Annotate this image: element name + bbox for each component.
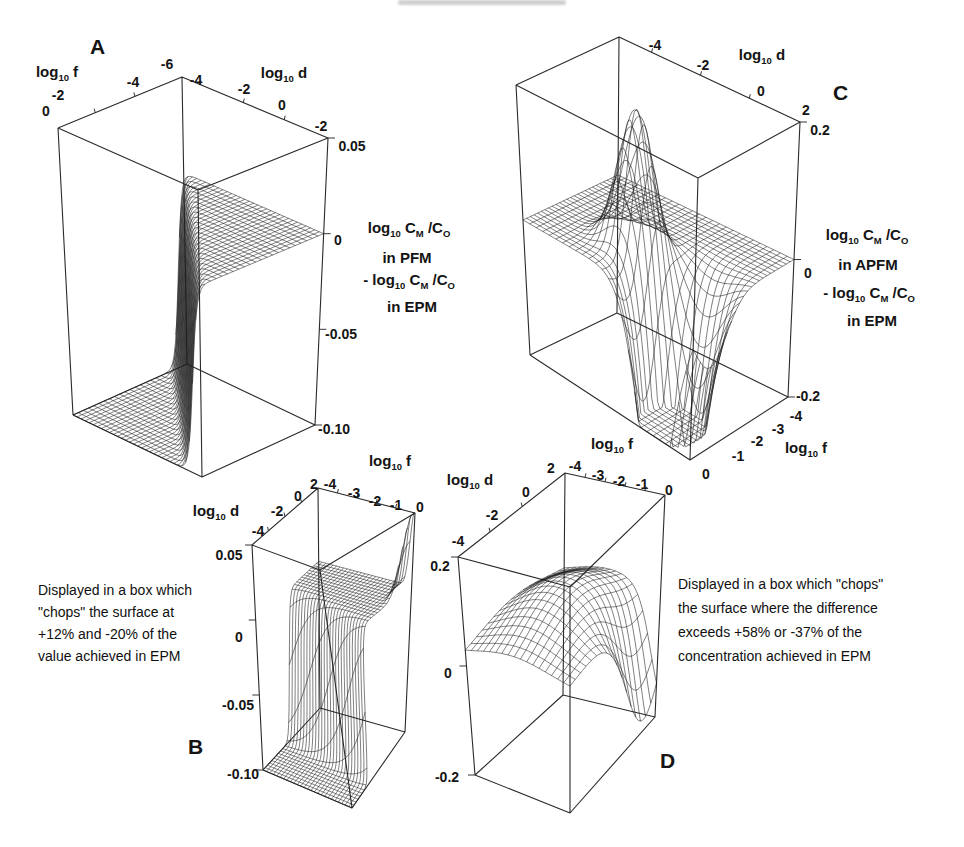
zlabel-a-line4: in EPM xyxy=(387,298,437,315)
tick-c-z-1: 0 xyxy=(804,265,812,281)
tick-b-d-3: 2 xyxy=(310,476,318,492)
zlabel-c-line2: in APFM xyxy=(838,256,897,273)
tick-a-z-0: 0.05 xyxy=(338,138,365,154)
axis-label-c-d: log10 d xyxy=(739,46,785,66)
axis-label-d-f: log10 f xyxy=(591,435,633,455)
tick-b-f-2: -2 xyxy=(369,493,381,509)
caption-right-line3: exceeds +58% or -37% of the xyxy=(678,624,862,640)
zlabel-c-line1: log10 CM /CO xyxy=(826,226,909,246)
panel-letter-c: C xyxy=(833,81,849,105)
tick-d-d-2: -2 xyxy=(486,507,498,523)
tick-c-f-1: -3 xyxy=(772,421,784,437)
tick-c-z-2: -0.2 xyxy=(796,388,820,404)
caption-right-line4: concentration achieved in EPM xyxy=(678,648,871,664)
tick-d-f-3: -1 xyxy=(636,476,648,492)
tick-a-d-1: -2 xyxy=(238,81,250,97)
axis-label-d-d: log10 d xyxy=(447,471,493,491)
zlabel-a-line3: - log10 CM /CO xyxy=(363,271,455,291)
zlabel-a-line1: log10 CM /CO xyxy=(368,219,451,239)
axis-label-a-f: log10 f xyxy=(36,63,78,83)
tick-a-z-2: -0.05 xyxy=(325,326,357,342)
panel-letter-d: D xyxy=(660,749,676,773)
tick-a-f-3: -6 xyxy=(161,56,173,72)
tick-a-d-0: -4 xyxy=(190,72,202,88)
tick-d-f-4: 0 xyxy=(665,482,673,498)
tick-b-d-0: -4 xyxy=(252,523,264,539)
caption-left-line3: +12% and -20% of the xyxy=(38,626,177,642)
tick-b-z-0: 0.05 xyxy=(215,547,242,563)
tick-d-d-1: 0 xyxy=(522,484,530,500)
tick-a-z-3: -0.10 xyxy=(318,421,350,437)
tick-a-d-3: -2 xyxy=(315,118,327,134)
zlabel-c-line4: in EPM xyxy=(847,312,897,329)
panel-letter-b: B xyxy=(188,735,204,759)
tick-c-d-1: -2 xyxy=(697,57,709,73)
caption-left-line2: "chops" the surface at xyxy=(38,604,174,620)
tick-b-f-1: -3 xyxy=(348,485,360,501)
zlabel-a-line2: in PFM xyxy=(382,249,431,266)
tick-b-f-3: -1 xyxy=(390,497,402,513)
tick-b-z-3: -0.10 xyxy=(227,766,259,782)
tick-d-d-0: 2 xyxy=(547,460,555,476)
tick-c-f-4: 0 xyxy=(702,466,710,482)
zlabel-c-line3: - log10 CM /CO xyxy=(823,284,915,304)
tick-d-d-3: -4 xyxy=(452,533,464,549)
tick-b-d-2: 0 xyxy=(294,488,302,504)
tick-d-f-0: -4 xyxy=(569,458,581,474)
tick-d-z-1: 0 xyxy=(444,665,452,681)
tick-b-f-4: 0 xyxy=(416,499,424,515)
tick-b-z-1: 0 xyxy=(235,629,243,645)
tick-b-f-0: -4 xyxy=(324,476,336,492)
tick-a-f-0: 0 xyxy=(42,103,50,119)
tick-c-f-2: -2 xyxy=(751,433,763,449)
caption-left-line4: value achieved in EPM xyxy=(38,648,180,664)
tick-d-f-2: -2 xyxy=(613,473,625,489)
tick-a-f-1: -2 xyxy=(52,87,64,103)
figure-canvas: A log10 f 0 -2 -4 -6 log10 d -4 -2 0 -2 … xyxy=(0,0,964,847)
tick-b-z-2: -0.05 xyxy=(222,697,254,713)
axis-label-b-d: log10 d xyxy=(193,502,239,522)
tick-c-d-2: 0 xyxy=(757,83,765,99)
tick-d-z-2: -0.2 xyxy=(435,769,459,785)
tick-a-z-1: 0 xyxy=(334,232,342,248)
panel-letter-a: A xyxy=(90,35,106,59)
tick-c-f-3: -1 xyxy=(732,448,744,464)
tick-a-f-2: -4 xyxy=(127,74,139,90)
tick-d-f-1: -3 xyxy=(592,467,604,483)
axis-label-c-f: log10 f xyxy=(785,439,827,459)
caption-right-line1: Displayed in a box which "chops" xyxy=(678,576,883,592)
axis-label-a-d: log10 d xyxy=(261,64,307,84)
axis-label-b-f: log10 f xyxy=(369,452,411,472)
tick-c-z-0: 0.2 xyxy=(810,122,829,138)
caption-left-line1: Displayed in a box which xyxy=(38,582,192,598)
tick-b-d-1: -2 xyxy=(271,503,283,519)
tick-d-z-0: 0.2 xyxy=(430,558,449,574)
tick-c-f-0: -4 xyxy=(790,408,802,424)
tick-c-d-3: 2 xyxy=(802,102,810,118)
tick-c-d-0: -4 xyxy=(649,37,661,53)
tick-a-d-2: 0 xyxy=(278,97,286,113)
figure-labels: A log10 f 0 -2 -4 -6 log10 d -4 -2 0 -2 … xyxy=(0,0,964,847)
caption-right-line2: the surface where the difference xyxy=(678,600,878,616)
